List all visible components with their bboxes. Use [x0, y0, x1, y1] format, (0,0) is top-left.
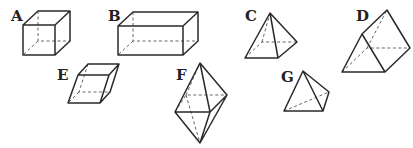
shape-d-triangular-prism: D [342, 7, 410, 72]
solids-figure: A B C D E F G [0, 0, 413, 148]
shape-a-cube: A [10, 7, 70, 55]
label-d: D [356, 7, 369, 25]
label-c: C [245, 7, 257, 25]
label-f: F [176, 66, 187, 84]
shape-c-square-pyramid: C [245, 7, 297, 58]
shape-g-triangular-pyramid: G [281, 68, 329, 111]
label-a: A [10, 7, 23, 25]
label-e: E [57, 66, 68, 84]
shape-f-bipyramid: F [175, 63, 227, 143]
shape-b-cuboid: B [108, 7, 198, 55]
label-b: B [108, 7, 121, 25]
label-g: G [281, 68, 294, 86]
shape-e-parallelepiped: E [57, 64, 119, 103]
